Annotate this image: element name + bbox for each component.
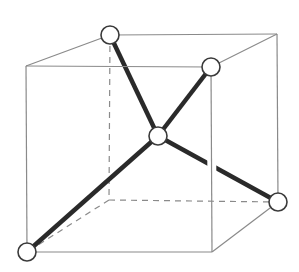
atom-front-top-right (202, 58, 220, 76)
bond-center-to-front-bottom-left (27, 136, 158, 252)
hidden-edge-bottom-left-depth (27, 200, 109, 252)
bond-center-to-back-bottom-right (158, 136, 278, 202)
edge-back-top (110, 34, 277, 35)
bond-center-to-front-top-right (158, 67, 211, 136)
front-edges (26, 66, 212, 252)
edge-back-right-vertical (277, 34, 278, 202)
edge-top-right-depth (211, 34, 277, 67)
atom-back-top-left (101, 26, 119, 44)
edge-front-right-vertical (211, 67, 212, 252)
bond-center-to-back-top-left (110, 35, 158, 136)
edge-top-left-depth (26, 35, 110, 66)
tetrahedral-cube-diagram (0, 0, 299, 272)
edge-front-top (26, 66, 211, 67)
atom-center (149, 127, 167, 145)
atom-back-bottom-right (269, 193, 287, 211)
atom-front-bottom-left (18, 243, 36, 261)
edge-bottom-right-depth (212, 202, 278, 252)
hidden-edge-back-left-vertical (109, 35, 110, 200)
hidden-edge-back-bottom (109, 200, 278, 202)
edge-front-left-vertical (26, 66, 27, 252)
